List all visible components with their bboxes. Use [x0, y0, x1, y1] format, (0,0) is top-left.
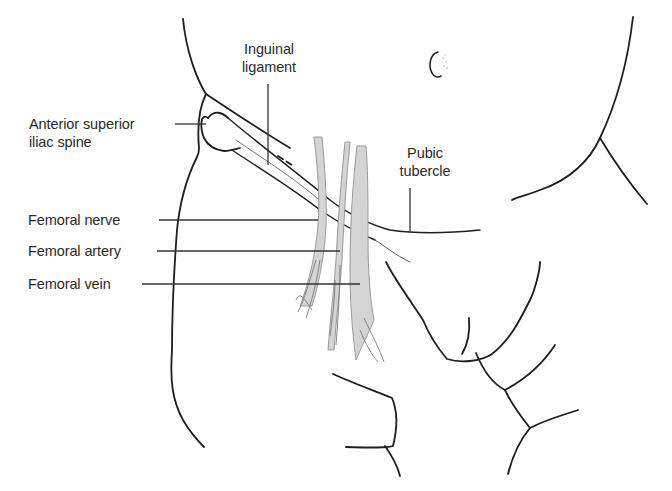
inner-thigh-left [333, 374, 396, 448]
label-pubic-tubercle-line2: tubercle [389, 162, 461, 180]
inner-thigh-right-lower [505, 390, 578, 428]
label-asis-line2: iliac spine [29, 133, 135, 151]
asis-outline [201, 117, 240, 151]
label-pubic-tubercle: Pubic tubercle [389, 144, 461, 180]
label-asis: Anterior superior iliac spine [29, 115, 135, 151]
thigh-outline-left [171, 94, 206, 447]
label-inguinal-ligament-line1: Inguinal [229, 40, 309, 58]
inner-thigh-right-bottom [508, 428, 530, 474]
femoral-vein-band [350, 146, 374, 360]
label-femoral-vein: Femoral vein [28, 275, 111, 293]
inner-thigh-right-upper [476, 345, 555, 390]
label-inguinal-ligament: Inguinal ligament [229, 40, 309, 76]
genital-outline [386, 262, 540, 361]
abdominal-wall-outline-left [183, 19, 206, 94]
inguinal-ligament-upper [206, 94, 290, 148]
umbilicus-outline [430, 52, 441, 77]
umbilicus-stipple [441, 54, 447, 68]
flank-crease-right [600, 138, 647, 204]
asis-top-edge [208, 113, 228, 118]
leader-lines [142, 84, 410, 284]
lacunar-fibers [375, 240, 410, 262]
label-asis-line1: Anterior superior [29, 115, 135, 133]
genital-midline [462, 318, 469, 354]
label-pubic-tubercle-line1: Pubic [389, 144, 461, 162]
label-femoral-nerve: Femoral nerve [28, 211, 120, 229]
abdominal-wall-outline-right [512, 17, 633, 200]
inner-thigh-left-bottom [385, 446, 400, 476]
inguinal-ligament-band-mid [236, 140, 325, 205]
femoral-nerve-band [300, 137, 326, 306]
femoral-artery-band [328, 142, 350, 350]
label-inguinal-ligament-line2: ligament [229, 58, 309, 76]
label-femoral-artery: Femoral artery [28, 242, 121, 260]
anatomy-figure: Inguinal ligament Anterior superior ilia… [0, 0, 672, 491]
